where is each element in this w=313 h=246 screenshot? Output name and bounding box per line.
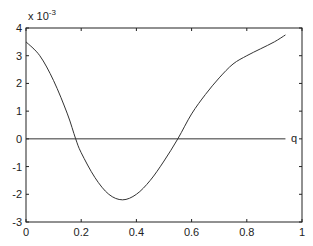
x-tick-label: 0 [23, 226, 29, 238]
y-tick-label: 4 [16, 22, 22, 34]
x-tick-label: 0.8 [239, 226, 254, 238]
plot-area [26, 28, 302, 222]
x-tick-label: 1 [299, 226, 305, 238]
y-tick-label: -1 [12, 161, 22, 173]
x-tick-label: 0.6 [184, 226, 199, 238]
y-tick-label: 3 [16, 50, 22, 62]
y-tick-label: -3 [12, 216, 22, 228]
y-tick-label: -2 [12, 188, 22, 200]
y-exponent-label: x 10-3 [28, 8, 56, 22]
y-tick-label: 1 [16, 105, 22, 117]
q-label: q [291, 132, 297, 144]
y-tick-label: 0 [16, 133, 22, 145]
chart: -3-2-101234 00.20.40.60.81 q x 10-3 [0, 0, 313, 246]
x-tick-label: 0.4 [129, 226, 144, 238]
x-tick-label: 0.2 [74, 226, 89, 238]
y-tick-label: 2 [16, 77, 22, 89]
